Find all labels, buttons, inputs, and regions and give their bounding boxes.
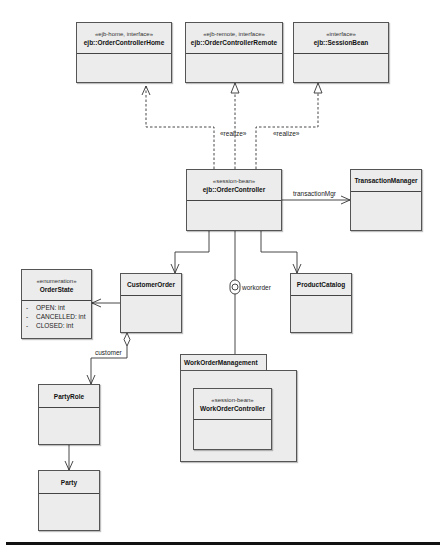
- class-session-bean[interactable]: «interface» ejb::SessionBean: [293, 22, 389, 83]
- stereotype-label: «interface»: [326, 30, 356, 38]
- class-name: ProductCatalog: [297, 280, 345, 289]
- dependency-line-home: [146, 86, 214, 169]
- attribute-list: -OPEN: int -CANCELLED: int -CLOSED: int: [22, 301, 91, 332]
- stereotype-label: «session-bean»: [213, 177, 255, 185]
- stereotype-label: «session-bean»: [211, 396, 253, 404]
- transaction-mgr-label: transactionMgr: [293, 190, 336, 198]
- class-transaction-manager[interactable]: TransactionManager: [350, 169, 422, 231]
- class-name: ejb::SessionBean: [314, 38, 369, 47]
- class-header: «ejb-home, interface» ejb::OrderControll…: [77, 23, 171, 54]
- class-name: ejb::OrderControllerHome: [84, 38, 165, 47]
- class-order-controller[interactable]: «session-bean» ejb::OrderController: [186, 169, 282, 231]
- class-name: Party: [61, 478, 77, 487]
- hollow-triangle-icon: [314, 83, 322, 93]
- hollow-triangle-icon: [231, 83, 239, 93]
- class-name: CustomerOrder: [127, 280, 175, 289]
- uml-diagram-canvas: «ejb-home, interface» ejb::OrderControll…: [0, 0, 444, 559]
- class-header: Party: [39, 471, 99, 494]
- workorder-label: workorder: [242, 284, 271, 292]
- class-party[interactable]: Party: [38, 470, 100, 531]
- class-order-state[interactable]: «enumeration» OrderState -OPEN: int -CAN…: [21, 269, 92, 339]
- class-header: «interface» ejb::SessionBean: [294, 23, 388, 54]
- class-party-role[interactable]: PartyRole: [38, 384, 100, 445]
- class-product-catalog[interactable]: ProductCatalog: [290, 273, 352, 333]
- association-line-customerorder: [175, 231, 209, 273]
- stereotype-label: «enumeration»: [36, 277, 76, 285]
- class-header: «ejb-remote, interface» ejb::OrderContro…: [186, 23, 282, 54]
- realize-label-remote: «realize»: [220, 130, 246, 138]
- class-name: WorkOrderController: [200, 404, 265, 413]
- class-name: PartyRole: [54, 392, 84, 401]
- realize-label-sessionbean: «realize»: [273, 130, 299, 138]
- class-header: «session-bean» ejb::OrderController: [187, 170, 281, 201]
- class-customer-order[interactable]: CustomerOrder: [120, 273, 182, 333]
- class-name: OrderState: [40, 285, 74, 294]
- class-name: ejb::OrderController: [203, 185, 265, 194]
- class-name: TransactionManager: [354, 176, 417, 185]
- bottom-divider-rule: [6, 542, 440, 545]
- class-header: PartyRole: [39, 385, 99, 408]
- class-header: «enumeration» OrderState: [22, 270, 91, 301]
- package-tab-work-order-management[interactable]: WorkOrderManagement: [180, 354, 267, 371]
- ball-icon: [232, 284, 238, 290]
- class-header: CustomerOrder: [121, 274, 181, 296]
- stereotype-label: «ejb-home, interface»: [95, 30, 153, 38]
- package-name: WorkOrderManagement: [184, 359, 258, 366]
- hollow-diamond-icon: [124, 333, 130, 346]
- class-work-order-controller[interactable]: «session-bean» WorkOrderController: [193, 388, 272, 450]
- class-name: ejb::OrderControllerRemote: [191, 38, 277, 47]
- class-order-controller-home[interactable]: «ejb-home, interface» ejb::OrderControll…: [76, 22, 172, 83]
- customer-label: customer: [95, 349, 122, 357]
- class-order-controller-remote[interactable]: «ejb-remote, interface» ejb::OrderContro…: [185, 22, 283, 83]
- class-header: TransactionManager: [351, 170, 421, 192]
- stereotype-label: «ejb-remote, interface»: [203, 30, 265, 38]
- attribute-row: -CLOSED: int: [26, 321, 87, 330]
- attribute-row: -OPEN: int: [26, 303, 87, 312]
- attribute-row: -CANCELLED: int: [26, 312, 87, 321]
- class-header: «session-bean» WorkOrderController: [194, 389, 271, 420]
- class-header: ProductCatalog: [291, 274, 351, 296]
- association-line-productcatalog: [261, 231, 297, 273]
